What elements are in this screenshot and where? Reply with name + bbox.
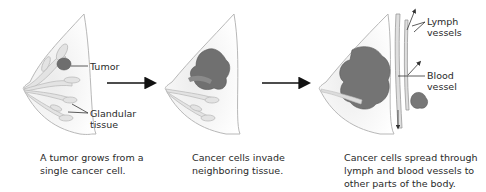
- caption-line: single cancer cell.: [40, 164, 143, 177]
- caption-line: Cancer cells invade: [192, 151, 285, 164]
- lymph-vessels-label: Lymph vessels: [427, 16, 462, 38]
- glandular-tissue-label: Glandular tissue: [90, 108, 136, 130]
- caption-line: other parts of the body.: [344, 177, 478, 190]
- caption-line: A tumor grows from a: [40, 151, 143, 164]
- caption-line: Cancer cells spread through: [344, 151, 478, 164]
- tumor-shape: [57, 58, 71, 70]
- breast-illustration-3: [319, 10, 427, 134]
- breast-illustration-2: [165, 14, 240, 134]
- caption-line: lymph and blood vessels to: [344, 164, 478, 177]
- caption-stage-2: Cancer cells invade neighboring tissue.: [192, 151, 285, 177]
- caption-stage-1: A tumor grows from a single cancer cell.: [40, 151, 143, 177]
- tumor-label: Tumor: [90, 61, 119, 72]
- metastasis-cluster: [411, 92, 428, 108]
- breast-illustration-1: [23, 14, 96, 134]
- blood-vessel-label: Blood vessel: [427, 70, 457, 92]
- lymph-vessels: [395, 14, 409, 128]
- caption-line: neighboring tissue.: [192, 164, 285, 177]
- spread-tumor-shape: [340, 47, 390, 109]
- caption-stage-3: Cancer cells spread through lymph and bl…: [344, 151, 478, 190]
